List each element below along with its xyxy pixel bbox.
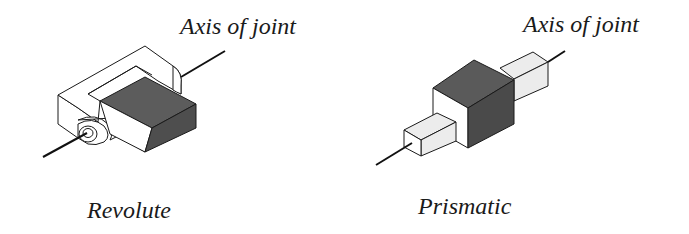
prismatic-axis-front <box>376 143 412 165</box>
prismatic-joint <box>376 51 565 165</box>
revolute-joint <box>43 46 225 157</box>
prismatic-axis-back <box>548 51 565 62</box>
revolute-axis-front <box>43 133 87 157</box>
prismatic-caption: Prismatic <box>418 194 511 218</box>
revolute-pin-hole-inner <box>83 129 93 138</box>
revolute-axis-back <box>181 51 225 77</box>
revolute-caption: Revolute <box>87 198 171 222</box>
revolute-axis-label: Axis of joint <box>180 14 296 38</box>
revolute-yoke-right-knuckle <box>173 66 181 94</box>
prismatic-axis-label: Axis of joint <box>523 12 639 36</box>
